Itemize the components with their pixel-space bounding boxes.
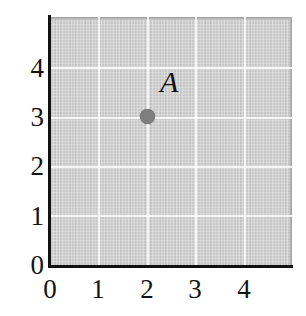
panel-texture (50, 17, 292, 265)
x-axis-tick-1: 1 (83, 276, 113, 303)
data-point-label-a: A (160, 67, 178, 97)
y-axis-tick-2: 2 (14, 153, 44, 180)
x-axis-tick-0: 0 (35, 276, 65, 303)
y-axis-tick-4: 4 (14, 55, 44, 82)
y-axis-tick-1: 1 (14, 203, 44, 230)
plot-area: A (50, 17, 292, 265)
y-axis-tick-0: 0 (14, 252, 44, 279)
gridline-vertical-x3 (195, 17, 197, 265)
gridline-horizontal-y1 (50, 215, 292, 217)
gridline-vertical-x2 (147, 17, 149, 265)
panel-top-edge (50, 17, 292, 20)
y-axis-line (48, 15, 51, 268)
gridline-vertical-x4 (244, 17, 246, 265)
y-axis-tick-3: 3 (14, 104, 44, 131)
gridline-horizontal-y3 (50, 117, 292, 119)
x-axis-tick-3: 3 (180, 276, 210, 303)
coordinate-grid-figure: A 0 1 2 3 4 0 1 2 3 4 (0, 0, 306, 316)
x-axis-line (48, 265, 293, 268)
data-point-a[interactable] (140, 109, 155, 124)
gridline-vertical-x1 (98, 17, 100, 265)
gridline-horizontal-y2 (50, 166, 292, 168)
panel-right-edge (289, 17, 292, 265)
x-axis-tick-4: 4 (229, 276, 259, 303)
x-axis-tick-2: 2 (132, 276, 162, 303)
